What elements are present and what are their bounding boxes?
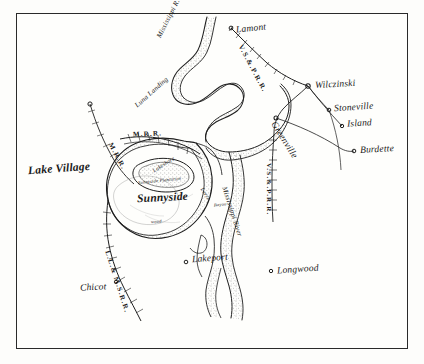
label-vsp-rr-east: V.S.&.P.R.R. <box>265 163 272 216</box>
label-wood-note: wood <box>151 220 162 225</box>
label-island: Island <box>347 118 372 129</box>
map-canvas: Lake Village Sunnyside Lamont Wilczinski… <box>0 0 424 364</box>
label-burdette: Burdette <box>360 144 394 155</box>
map-linework <box>0 0 424 364</box>
mississippi-river-north <box>172 17 245 142</box>
label-chicot: Chicot <box>80 282 107 293</box>
label-m-rr-west: M.R.R. <box>133 130 162 138</box>
